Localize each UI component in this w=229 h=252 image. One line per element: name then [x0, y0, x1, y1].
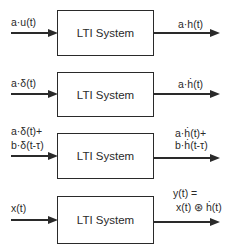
output-label: a·ḣ(t) — [178, 78, 203, 91]
box-label: LTI System — [77, 89, 134, 101]
output-label-line-2: b·ḣ(t-τ) — [175, 139, 208, 152]
input-label-line-1: a·δ(t)+ — [11, 125, 42, 138]
lti-system-box: LTI System — [57, 72, 154, 117]
output-arrow-line — [154, 93, 214, 95]
output-arrow-line — [154, 157, 214, 159]
input-arrow-line — [11, 93, 51, 95]
lti-system-box: LTI System — [57, 196, 154, 244]
lti-system-box: LTI System — [57, 133, 154, 179]
output-arrow-line — [154, 32, 214, 34]
output-arrowhead-icon — [210, 90, 220, 98]
output-label: a·h(t) — [178, 18, 203, 31]
box-label: LTI System — [77, 150, 134, 162]
input-arrow-line — [11, 32, 51, 34]
input-label-line-2: b·δ(t-τ) — [11, 139, 44, 152]
output-arrow-line — [154, 221, 214, 223]
lti-system-box: LTI System — [57, 10, 154, 56]
input-label: a·u(t) — [11, 16, 36, 29]
output-label-line-1: y(t) = — [173, 187, 197, 200]
output-label-line-2: x(t) ⊛ ḣ(t) — [176, 201, 222, 214]
box-label: LTI System — [77, 27, 134, 39]
output-arrowhead-icon — [210, 218, 220, 226]
row-superposition: a·δ(t)+ b·δ(t-τ) LTI System a·ḣ(t)+ b·ḣ(… — [0, 122, 229, 184]
input-arrow-line — [11, 219, 51, 221]
row-convolution: x(t) LTI System y(t) = x(t) ⊛ ḣ(t) — [0, 184, 229, 252]
input-label: a·δ(t) — [11, 77, 36, 90]
output-arrowhead-icon — [210, 154, 220, 162]
output-arrowhead-icon — [210, 29, 220, 37]
input-arrow-line — [11, 155, 51, 157]
box-label: LTI System — [77, 214, 134, 226]
input-label: x(t) — [11, 202, 26, 215]
row-step-response: a·u(t) LTI System a·h(t) — [0, 0, 229, 60]
row-impulse-response: a·δ(t) LTI System a·ḣ(t) — [0, 60, 229, 122]
